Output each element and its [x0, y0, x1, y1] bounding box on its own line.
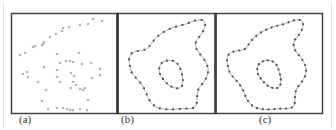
figure-canvas: [0, 0, 336, 130]
panel-b-label: (b): [121, 113, 134, 125]
panel-c-label: (c): [259, 113, 271, 125]
panel-c-points: [226, 19, 307, 111]
panel-a-border: [12, 14, 118, 114]
panel-a-points: [19, 18, 104, 112]
panel-a-label: (a): [19, 113, 31, 125]
panel-c-curves: [227, 20, 306, 110]
panel-b-border: [118, 14, 216, 114]
panel-b-points: [128, 19, 209, 111]
